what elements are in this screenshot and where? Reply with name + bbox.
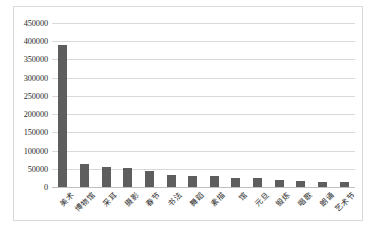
x-axis-tick-label: 锻炼	[273, 189, 292, 208]
y-axis-tick-label: 300000	[24, 73, 48, 82]
x-axis-tick-label: 唱歌	[295, 189, 314, 208]
x-axis-tick-label: 馆	[235, 189, 248, 202]
bar	[275, 180, 284, 187]
x-axis-tick-label: 春节	[143, 189, 162, 208]
y-axis-tick-label: 200000	[24, 110, 48, 119]
x-axis-tick-label: 舞蹈	[186, 189, 205, 208]
bar	[253, 178, 262, 187]
bar	[340, 182, 349, 187]
bar	[318, 182, 327, 187]
x-axis-tick-label: 摄影	[121, 189, 140, 208]
chart-frame: 0500001000001500002000002500003000003500…	[13, 6, 363, 221]
y-axis-tick-label: 150000	[24, 128, 48, 137]
x-axis-tick-label: 书法	[165, 189, 184, 208]
x-axis-tick-label: 元旦	[251, 189, 270, 208]
bar	[188, 176, 197, 187]
bar	[296, 181, 305, 187]
y-axis-tick-label: 350000	[24, 55, 48, 64]
bar-series	[52, 23, 355, 187]
y-axis-tick-label: 0	[44, 183, 48, 192]
bar	[210, 176, 219, 187]
plot-area	[52, 23, 355, 187]
x-axis-tick-label: 采耳	[100, 189, 119, 208]
bar	[167, 175, 176, 187]
y-axis-tick-label: 450000	[24, 19, 48, 28]
x-axis-tick-label: 艺术节	[332, 189, 357, 214]
y-axis: 0500001000001500002000002500003000003500…	[14, 23, 48, 187]
bar	[231, 178, 240, 187]
bar	[102, 167, 111, 187]
x-axis-tick-label: 素描	[208, 189, 227, 208]
bar	[80, 164, 89, 187]
gridline	[52, 187, 355, 188]
bar	[58, 45, 67, 187]
y-axis-tick-label: 250000	[24, 91, 48, 100]
x-axis: 美术博物馆采耳摄影春节书法舞蹈素描馆元旦锻炼唱歌朗诵艺术节	[52, 189, 355, 229]
y-axis-tick-label: 400000	[24, 37, 48, 46]
bar	[145, 171, 154, 187]
bar	[123, 168, 132, 187]
y-axis-tick-label: 50000	[28, 164, 48, 173]
y-axis-tick-label: 100000	[24, 146, 48, 155]
x-axis-tick-label: 博物馆	[72, 189, 97, 214]
